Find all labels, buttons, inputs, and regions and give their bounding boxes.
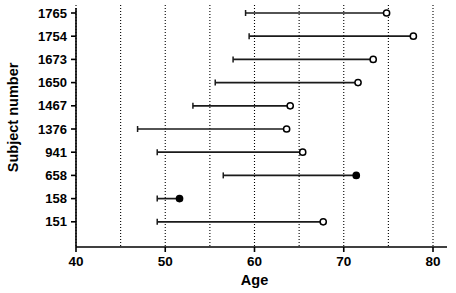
y-ticks-group: 176517541673165014671376941658158151 xyxy=(38,6,76,230)
data-row-1467[interactable] xyxy=(193,103,293,109)
data-row-1376[interactable] xyxy=(138,126,290,132)
gridlines-group xyxy=(76,5,433,246)
y-tick-label-941: 941 xyxy=(45,145,67,160)
axes-group xyxy=(76,8,447,247)
data-row-658[interactable] xyxy=(223,172,359,178)
open-marker-1376[interactable] xyxy=(284,126,290,132)
open-marker-941[interactable] xyxy=(300,149,306,155)
y-tick-label-158: 158 xyxy=(45,191,67,206)
open-marker-151[interactable] xyxy=(320,219,326,225)
open-marker-1765[interactable] xyxy=(383,10,389,16)
data-row-1765[interactable] xyxy=(246,10,390,16)
y-axis-title: Subject number xyxy=(5,62,21,172)
y-tick-label-658: 658 xyxy=(45,168,67,183)
y-tick-label-1650: 1650 xyxy=(38,75,67,90)
chart-container: 4050607080176517541673165014671376941658… xyxy=(0,0,456,293)
dot-range-plot: 4050607080176517541673165014671376941658… xyxy=(0,0,456,293)
x-tick-label-60: 60 xyxy=(247,254,262,269)
filled-marker-158[interactable] xyxy=(176,196,182,202)
filled-marker-658[interactable] xyxy=(353,172,359,178)
data-row-1650[interactable] xyxy=(215,80,361,86)
y-tick-label-1673: 1673 xyxy=(38,52,67,67)
x-tick-label-50: 50 xyxy=(158,254,173,269)
open-marker-1754[interactable] xyxy=(410,33,416,39)
data-row-941[interactable] xyxy=(157,149,306,155)
y-tick-label-151: 151 xyxy=(45,214,67,229)
data-series-group xyxy=(138,10,417,225)
x-tick-label-80: 80 xyxy=(425,254,440,269)
data-row-1673[interactable] xyxy=(233,56,376,62)
y-tick-label-1467: 1467 xyxy=(38,98,67,113)
y-tick-label-1765: 1765 xyxy=(38,6,67,21)
open-marker-1650[interactable] xyxy=(355,80,361,86)
x-ticks-group: 4050607080 xyxy=(68,247,440,269)
x-tick-label-70: 70 xyxy=(336,254,351,269)
data-row-158[interactable] xyxy=(157,196,182,202)
y-tick-label-1754: 1754 xyxy=(38,29,68,44)
data-row-1754[interactable] xyxy=(249,33,416,39)
open-marker-1673[interactable] xyxy=(370,56,376,62)
x-tick-label-40: 40 xyxy=(68,254,83,269)
x-axis-title: Age xyxy=(241,272,268,288)
data-row-151[interactable] xyxy=(157,219,326,225)
open-marker-1467[interactable] xyxy=(287,103,293,109)
y-tick-label-1376: 1376 xyxy=(38,122,67,137)
